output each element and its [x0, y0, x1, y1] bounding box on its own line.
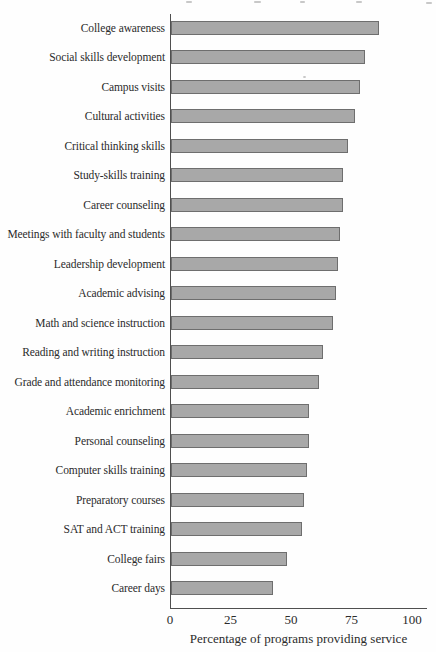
- x-tick-label: 0: [167, 612, 174, 628]
- bar: [171, 168, 343, 182]
- category-label: College awareness: [0, 22, 170, 34]
- category-label: Leadership development: [0, 258, 170, 270]
- x-tick-labels: 0255075100: [170, 612, 427, 628]
- bar-row: Career counseling: [0, 190, 436, 220]
- bar: [171, 493, 304, 507]
- scan-artifact: [300, 1, 305, 3]
- x-tick-label: 100: [402, 612, 422, 628]
- scan-artifact: [356, 1, 362, 3]
- bar: [171, 109, 355, 123]
- category-label: Computer skills training: [0, 464, 170, 476]
- category-label: Preparatory courses: [0, 494, 170, 506]
- bar-row: College fairs: [0, 544, 436, 574]
- bar: [171, 581, 273, 595]
- bar-row: Preparatory courses: [0, 485, 436, 515]
- bar-row: Study-skills training: [0, 161, 436, 191]
- bar: [171, 80, 360, 94]
- category-label: Personal counseling: [0, 435, 170, 447]
- bar: [171, 227, 340, 241]
- category-label: Career counseling: [0, 199, 170, 211]
- bar-row: Academic enrichment: [0, 397, 436, 427]
- bar-row: Leadership development: [0, 249, 436, 279]
- category-label: Reading and writing instruction: [0, 346, 170, 358]
- category-label: Grade and attendance monitoring: [0, 376, 170, 388]
- y-axis-line: [170, 14, 171, 608]
- x-tick-label: 25: [224, 612, 237, 628]
- category-label: College fairs: [0, 553, 170, 565]
- bar: [171, 257, 338, 271]
- bar: [171, 522, 302, 536]
- bar: [171, 345, 323, 359]
- bar-row: Cultural activities: [0, 102, 436, 132]
- bar-row: College awareness: [0, 13, 436, 43]
- x-axis-title: Percentage of programs providing service: [170, 631, 427, 647]
- bar-row: Career days: [0, 574, 436, 604]
- bar-row: Math and science instruction: [0, 308, 436, 338]
- scan-artifact: [254, 1, 261, 3]
- category-label: SAT and ACT training: [0, 523, 170, 535]
- x-axis-line: [170, 608, 427, 609]
- category-label: Campus visits: [0, 81, 170, 93]
- bar-chart-figure: College awareness Social skills developm…: [0, 0, 436, 652]
- bar: [171, 21, 379, 35]
- bar-row: Computer skills training: [0, 456, 436, 486]
- category-label: Study-skills training: [0, 169, 170, 181]
- scan-artifact: [426, 2, 432, 4]
- category-label: Academic enrichment: [0, 405, 170, 417]
- bar: [171, 316, 333, 330]
- bar: [171, 50, 365, 64]
- bar: [171, 463, 307, 477]
- category-label: Critical thinking skills: [0, 140, 170, 152]
- bar: [171, 375, 319, 389]
- bar: [171, 286, 336, 300]
- bar-row: Critical thinking skills: [0, 131, 436, 161]
- bar-row: Personal counseling: [0, 426, 436, 456]
- bar-row: Academic advising: [0, 279, 436, 309]
- category-label: Meetings with faculty and students: [0, 228, 170, 240]
- category-label: Math and science instruction: [0, 317, 170, 329]
- scan-artifact: [186, 1, 192, 3]
- bar-row: Grade and attendance monitoring: [0, 367, 436, 397]
- x-tick-label: 75: [345, 612, 358, 628]
- chart-rows: College awareness Social skills developm…: [0, 13, 436, 603]
- bar-row: Meetings with faculty and students: [0, 220, 436, 250]
- bar-row: Social skills development: [0, 43, 436, 73]
- x-tick-label: 50: [285, 612, 298, 628]
- bar-row: Reading and writing instruction: [0, 338, 436, 368]
- bar-row: Campus visits: [0, 72, 436, 102]
- bar-row: SAT and ACT training: [0, 515, 436, 545]
- category-label: Social skills development: [0, 51, 170, 63]
- bar: [171, 139, 348, 153]
- category-label: Career days: [0, 582, 170, 594]
- bar: [171, 552, 287, 566]
- category-label: Cultural activities: [0, 110, 170, 122]
- bar: [171, 404, 309, 418]
- bar: [171, 198, 343, 212]
- category-label: Academic advising: [0, 287, 170, 299]
- bar: [171, 434, 309, 448]
